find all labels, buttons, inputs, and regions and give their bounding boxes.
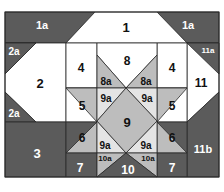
- label-11b: 11b: [194, 143, 213, 155]
- quilt-block-diagram: 1 1a 1a 2 2a 2a 3 4 4 5 5 6 6 7 7 8 8a 8…: [0, 0, 224, 192]
- label-6-left: 6: [79, 131, 86, 145]
- label-9a-tl: 9a: [100, 93, 112, 104]
- label-1: 1: [122, 20, 129, 35]
- label-2a-top: 2a: [8, 46, 20, 57]
- label-5-left: 5: [79, 99, 86, 113]
- label-9a-br: 9a: [140, 140, 152, 151]
- label-9: 9: [123, 115, 130, 130]
- label-10a-right: 10a: [141, 154, 155, 163]
- label-6-right: 6: [169, 131, 176, 145]
- label-7-right: 7: [169, 161, 176, 175]
- label-4-right: 4: [169, 61, 176, 75]
- label-4-left: 4: [78, 61, 85, 75]
- label-1a-left: 1a: [36, 19, 49, 31]
- label-8a-left: 8a: [100, 76, 112, 87]
- label-10a-left: 10a: [98, 154, 112, 163]
- label-5-right: 5: [169, 99, 176, 113]
- label-7-left: 7: [77, 161, 84, 175]
- label-9a-tr: 9a: [141, 93, 153, 104]
- label-9a-bl: 9a: [99, 140, 111, 151]
- label-11a: 11a: [202, 46, 215, 55]
- label-11: 11: [195, 76, 208, 90]
- label-10: 10: [121, 163, 135, 177]
- label-2a-bottom: 2a: [8, 108, 20, 119]
- label-1a-right: 1a: [182, 19, 195, 31]
- label-2: 2: [36, 76, 43, 91]
- label-8: 8: [124, 54, 131, 68]
- label-8a-right: 8a: [140, 76, 152, 87]
- label-3: 3: [33, 146, 40, 161]
